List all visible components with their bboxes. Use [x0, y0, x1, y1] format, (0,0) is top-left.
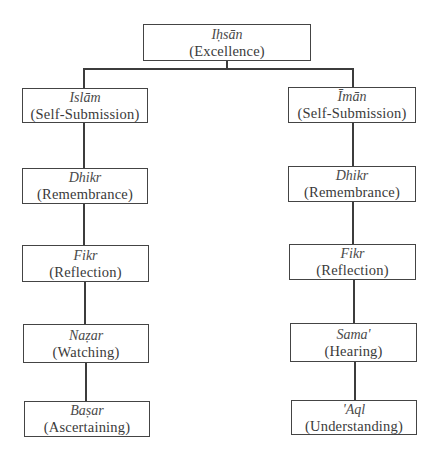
connector-left-2-3: [83, 203, 85, 246]
node-basar: Baṣar (Ascertaining): [24, 401, 150, 437]
connector-left-drop: [83, 68, 85, 88]
connector-left-4-5: [85, 362, 87, 402]
node-gloss: (Hearing): [324, 343, 382, 360]
node-aql: 'Aql (Understanding): [291, 400, 417, 435]
node-gloss: (Reflection): [49, 264, 121, 281]
node-gloss: (Remembrance): [37, 186, 133, 203]
node-iman: Īmān (Self-Submission): [288, 87, 416, 123]
node-gloss: (Remembrance): [304, 184, 400, 201]
node-term: Islām: [69, 89, 100, 106]
node-left-dhikr: Dhikr (Remembrance): [22, 168, 148, 204]
connector-root-crossbar: [83, 68, 353, 70]
node-term: Īmān: [338, 88, 367, 105]
node-gloss: (Ascertaining): [44, 419, 131, 436]
node-right-fikr: Fikr (Reflection): [289, 244, 416, 280]
node-gloss: (Self-Submission): [298, 105, 407, 122]
node-term: Fikr: [340, 245, 364, 262]
node-gloss: (Watching): [53, 344, 120, 361]
node-islam: Islām (Self-Submission): [22, 88, 148, 123]
connector-left-1-2: [83, 122, 85, 168]
node-term: Dhikr: [336, 167, 369, 184]
node-ihsan: Iḥsān (Excellence): [143, 24, 311, 61]
connector-right-1-2: [352, 122, 354, 167]
node-nazar: Naẓar (Watching): [23, 324, 149, 363]
hierarchy-diagram: Iḥsān (Excellence) Islām (Self-Submissio…: [0, 0, 438, 460]
connector-right-4-5: [354, 361, 356, 401]
node-sama: Sama' (Hearing): [290, 323, 417, 362]
node-term: Naẓar: [69, 327, 103, 344]
node-term: Dhikr: [69, 169, 102, 186]
connector-left-3-4: [84, 281, 86, 325]
node-term: Fikr: [73, 247, 97, 264]
node-term: Iḥsān: [211, 26, 242, 43]
connector-right-drop: [352, 68, 354, 88]
node-gloss: (Self-Submission): [31, 106, 140, 123]
node-term: 'Aql: [343, 401, 365, 418]
node-term: Baṣar: [70, 402, 103, 419]
node-gloss: (Excellence): [189, 43, 265, 60]
connector-right-2-3: [352, 201, 354, 245]
connector-right-3-4: [353, 279, 355, 324]
node-gloss: (Understanding): [305, 418, 403, 435]
node-term: Sama': [336, 326, 370, 343]
node-right-dhikr: Dhikr (Remembrance): [288, 166, 416, 202]
node-left-fikr: Fikr (Reflection): [22, 245, 149, 282]
node-gloss: (Reflection): [316, 262, 388, 279]
